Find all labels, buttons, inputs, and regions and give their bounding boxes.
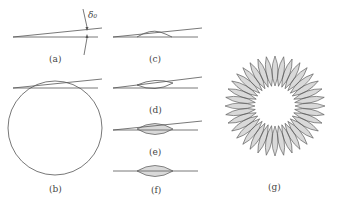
panel-label-d: (d) — [149, 105, 162, 115]
panel-label-a: (a) — [49, 54, 61, 64]
panel-label-f: (f) — [151, 185, 161, 195]
panel-g — [225, 56, 325, 156]
panel-f: (f) — [113, 166, 198, 196]
panel-e: (e) — [113, 121, 202, 157]
panel-b: (b) — [8, 79, 102, 194]
arrow-icon — [83, 9, 87, 27]
panel-label-c: (c) — [149, 54, 161, 64]
arrow-icon — [84, 38, 87, 55]
panel-d: (d) — [113, 77, 202, 115]
panel-label-e: (e) — [149, 147, 161, 157]
panel-label-b: (b) — [49, 184, 62, 194]
delta-annotation: δ₀ — [88, 10, 97, 20]
rosette-petal — [295, 103, 325, 109]
panel-label-g: (g) — [268, 182, 281, 192]
panel-c: (c) — [113, 28, 202, 64]
diagram-figure: δ₀ (a) (b) (c) (d) (e) (f) — [0, 0, 342, 202]
panel-a: δ₀ (a) — [13, 9, 102, 64]
